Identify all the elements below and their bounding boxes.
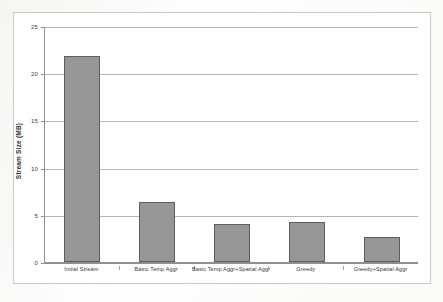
bars-layer xyxy=(45,27,418,262)
x-axis-tick-label: Greedy xyxy=(296,266,315,272)
x-axis-tick-label: Greedy+Spatial Aggr xyxy=(354,266,408,272)
bar-slot xyxy=(344,27,419,262)
bar-chart-figure: Stream Size (MB) 0510152025 Initial Stre… xyxy=(0,0,443,302)
x-axis-tick xyxy=(119,266,120,270)
x-axis-tick-label: Basic Temp Aggr+Spatial Aggr xyxy=(192,266,270,272)
gridline xyxy=(45,263,418,264)
bar xyxy=(64,56,100,262)
bar xyxy=(214,224,250,262)
y-axis-tick xyxy=(41,263,45,264)
y-axis-tick-label-wrap: 25 xyxy=(5,27,45,262)
bar xyxy=(289,222,325,262)
bar-slot xyxy=(195,27,270,262)
y-axis-tick-label: 25 xyxy=(31,24,38,30)
bar xyxy=(364,237,400,262)
x-axis-tick-label: Initial Stream xyxy=(64,266,98,272)
x-axis-tick xyxy=(343,266,344,270)
bar-slot xyxy=(45,27,120,262)
x-axis-labels: Initial StreamBasic Temp AggrBasic Temp … xyxy=(44,266,418,282)
plot-area: 0510152025 xyxy=(44,27,418,263)
bar-slot xyxy=(269,27,344,262)
bar xyxy=(139,202,175,262)
x-axis-tick-label: Basic Temp Aggr xyxy=(134,266,177,272)
x-axis-tick xyxy=(268,266,269,270)
bar-slot xyxy=(120,27,195,262)
